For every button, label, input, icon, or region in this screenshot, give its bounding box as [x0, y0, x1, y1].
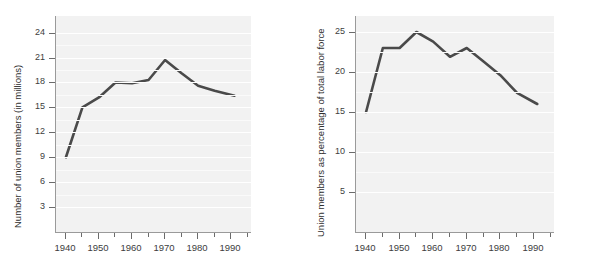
- y-axis-tick-label: 15: [15, 101, 45, 111]
- plot-area-right: [355, 16, 554, 233]
- x-axis-tick: [230, 233, 231, 239]
- y-axis-tick-label: 18: [15, 76, 45, 86]
- y-axis-tick-label: 20: [315, 66, 345, 76]
- line-series-union-members: [56, 16, 251, 232]
- y-axis-tick-label: 12: [15, 126, 45, 136]
- x-axis-tick: [483, 233, 484, 237]
- x-axis-tick: [164, 233, 165, 239]
- y-axis-tick-label: 25: [315, 26, 345, 36]
- gridline-minor: [356, 132, 554, 133]
- gridline-minor: [356, 52, 554, 53]
- y-axis-tick: [49, 82, 55, 83]
- y-axis-tick-label: 9: [15, 151, 45, 161]
- gridline-minor: [56, 95, 251, 96]
- gridline: [356, 192, 554, 193]
- gridline-minor: [356, 172, 554, 173]
- chart-panel-union-members: Number of union members (in millions) 36…: [0, 0, 300, 270]
- gridline: [56, 33, 251, 34]
- gridline-minor: [356, 92, 554, 93]
- x-axis-tick: [114, 233, 115, 237]
- x-axis-tick: [415, 233, 416, 237]
- x-axis-tick: [247, 233, 248, 237]
- x-axis-tick: [516, 233, 517, 237]
- gridline: [56, 107, 251, 108]
- gridline-minor: [56, 170, 251, 171]
- gridline: [356, 72, 554, 73]
- x-axis-tick: [432, 233, 433, 239]
- gridline: [56, 58, 251, 59]
- x-axis-tick: [98, 233, 99, 239]
- y-axis-tick-label: 21: [15, 52, 45, 62]
- gridline-minor: [56, 195, 251, 196]
- x-axis-tick-label: 1990: [210, 242, 250, 253]
- gridline: [56, 157, 251, 158]
- x-axis-tick: [533, 233, 534, 239]
- gridline: [56, 182, 251, 183]
- gridline-minor: [56, 45, 251, 46]
- gridline: [56, 82, 251, 83]
- x-axis-tick: [131, 233, 132, 239]
- gridline: [56, 207, 251, 208]
- y-axis-tick-label: 24: [15, 27, 45, 37]
- gridline: [56, 132, 251, 133]
- x-axis-tick: [148, 233, 149, 237]
- x-axis-tick: [550, 233, 551, 237]
- line-series-union-percentage: [356, 16, 554, 232]
- y-axis-tick: [349, 72, 355, 73]
- figure-two-line-charts: Number of union members (in millions) 36…: [0, 0, 605, 270]
- y-axis-tick: [49, 33, 55, 34]
- plot-area-left: [55, 16, 251, 233]
- y-axis-title-right: Union members as percentage of total lab…: [315, 28, 326, 237]
- y-axis-tick: [49, 107, 55, 108]
- x-axis-tick: [399, 233, 400, 239]
- y-axis-tick: [49, 58, 55, 59]
- y-axis-tick: [349, 32, 355, 33]
- y-axis-tick-label: 10: [315, 146, 345, 156]
- y-axis-tick-label: 6: [15, 176, 45, 186]
- y-axis-tick: [349, 152, 355, 153]
- y-axis-tick-label: 3: [15, 201, 45, 211]
- x-axis-tick: [365, 233, 366, 239]
- x-axis-tick: [382, 233, 383, 237]
- x-axis-tick: [197, 233, 198, 239]
- y-axis-tick-label: 5: [315, 186, 345, 196]
- x-axis-tick: [81, 233, 82, 237]
- y-axis-tick: [49, 207, 55, 208]
- y-axis-tick: [349, 112, 355, 113]
- x-axis-tick-label: 1990: [513, 242, 553, 253]
- y-axis-tick: [49, 182, 55, 183]
- data-line: [66, 60, 235, 157]
- y-axis-tick: [349, 192, 355, 193]
- chart-panel-union-percentage: Union members as percentage of total lab…: [303, 0, 605, 270]
- gridline-minor: [56, 70, 251, 71]
- gridline: [356, 112, 554, 113]
- y-axis-tick: [49, 132, 55, 133]
- gridline-minor: [56, 145, 251, 146]
- x-axis-tick: [499, 233, 500, 239]
- x-axis-tick: [466, 233, 467, 239]
- x-axis-tick: [181, 233, 182, 237]
- gridline: [356, 152, 554, 153]
- y-axis-tick: [49, 157, 55, 158]
- gridline-minor: [56, 120, 251, 121]
- x-axis-tick: [449, 233, 450, 237]
- x-axis-tick: [65, 233, 66, 239]
- x-axis-tick: [214, 233, 215, 237]
- y-axis-tick-label: 15: [315, 106, 345, 116]
- gridline: [356, 32, 554, 33]
